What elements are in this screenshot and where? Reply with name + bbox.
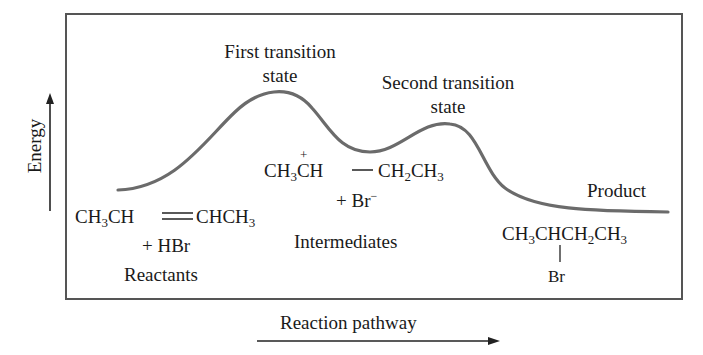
intermediates-label: Intermediates — [294, 232, 397, 251]
second-ts-label-line1: Second transition — [348, 73, 548, 92]
intermediate-bromide: + Br− — [336, 191, 377, 210]
product-label: Product — [587, 181, 646, 200]
first-ts-label-line2: state — [200, 66, 360, 85]
reactant-hbr: + HBr — [142, 236, 190, 255]
reactants-label: Reactants — [124, 265, 198, 284]
reactant-formula-right: CHCH3 — [196, 207, 255, 226]
second-ts-label-line2: state — [348, 97, 548, 116]
x-axis-label: Reaction pathway — [280, 313, 417, 332]
reactant-formula-left: CH3CH — [75, 207, 134, 226]
y-axis-label: Energy — [24, 119, 46, 174]
product-substituent: Br — [548, 268, 565, 285]
first-ts-label-line1: First transition — [200, 42, 360, 61]
intermediate-formula: CH3CH — [264, 161, 323, 180]
product-formula: CH3CHCH2CH3 — [502, 224, 627, 243]
carbocation-charge-icon: C — [297, 161, 310, 180]
intermediate-formula-right: CH2CH3 — [378, 161, 444, 180]
pathway-arrowhead-icon — [488, 337, 500, 345]
energy-arrowhead-icon — [46, 93, 54, 104]
